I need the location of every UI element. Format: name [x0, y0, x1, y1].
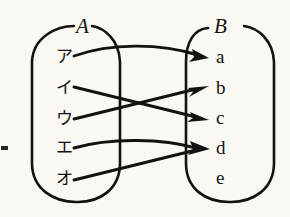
mapping-arrow-i-to-c: [74, 87, 196, 117]
mapping-arrow-a-to-a: [74, 46, 198, 56]
set-a-element-4: オ: [56, 168, 73, 188]
mapping-arrow-u-to-b: [74, 89, 196, 119]
set-a-outline: [32, 26, 120, 202]
mapping-arrow-o-to-d: [74, 150, 196, 180]
mapping-arrow-e-to-d: [74, 140, 196, 148]
set-b-element-1: b: [216, 77, 226, 98]
set-a-element-1: イ: [56, 77, 73, 97]
edge-crop-mark: [1, 146, 8, 150]
set-a-element-3: エ: [56, 137, 73, 157]
set-a-label: A: [74, 14, 89, 38]
set-a-element-0: ア: [56, 46, 73, 66]
set-b-outline: [186, 26, 274, 202]
set-a-element-2: ウ: [56, 108, 73, 128]
arrowhead-a: [189, 49, 209, 62]
set-b-element-2: c: [216, 107, 224, 128]
mapping-diagram: A B ア イ ウ エ オ a b c d e: [0, 0, 290, 217]
set-b-element-0: a: [216, 46, 225, 67]
set-b-element-3: d: [216, 137, 226, 158]
set-b-label: B: [214, 14, 227, 38]
set-b-element-4: e: [216, 167, 224, 188]
